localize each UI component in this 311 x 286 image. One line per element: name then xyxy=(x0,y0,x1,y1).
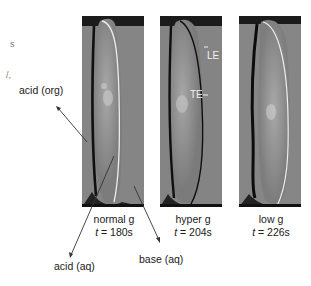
caption-hyper-g: hyper g t = 204s xyxy=(153,213,233,239)
time-label: t = 204s xyxy=(153,226,233,239)
caption-low-g: low g t = 226s xyxy=(231,213,311,239)
cropped-text-fragment: s xyxy=(10,39,15,49)
micrograph-normal-g xyxy=(82,16,144,207)
micrograph-low-g xyxy=(239,16,301,207)
caption-normal-g: normal g t = 180s xyxy=(74,213,154,239)
base-aq-label: base (aq) xyxy=(139,253,183,265)
image-panel-normal-g xyxy=(82,16,144,207)
leading-edge-label: LE xyxy=(207,50,219,61)
image-panel-low-g xyxy=(239,16,301,207)
condition-label: normal g xyxy=(74,213,154,226)
condition-label: hyper g xyxy=(153,213,233,226)
micrograph-hyper-g xyxy=(160,16,222,207)
condition-label: low g xyxy=(231,213,311,226)
cropped-text-fragment: /, xyxy=(6,70,11,80)
acid-aq-label: acid (aq) xyxy=(54,260,95,272)
time-label: t = 180s xyxy=(74,226,154,239)
acid-org-label: acid (org) xyxy=(19,84,63,96)
image-panel-hyper-g xyxy=(160,16,222,207)
trailing-edge-label: TE xyxy=(190,89,203,100)
time-label: t = 226s xyxy=(231,226,311,239)
